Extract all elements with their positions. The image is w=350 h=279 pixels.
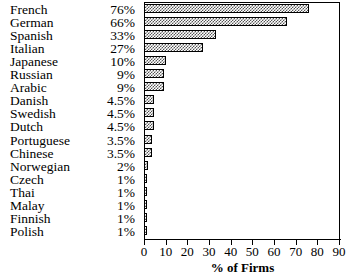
bar [144,69,164,78]
category-value-label: 27% [35,42,135,55]
bar [144,161,148,170]
plot-frame-top [144,2,340,3]
category-value-label: 9% [35,68,135,81]
category-value-label: 4.5% [35,120,135,133]
bar [144,187,147,196]
category-value-label: 9% [35,81,135,94]
category-value-label: 1% [35,173,135,186]
category-value-label: 3.5% [35,134,135,147]
category-value-label: 66% [35,16,135,29]
category-value-label: 4.5% [35,107,135,120]
category-value-label: 1% [35,212,135,225]
category-value-label: 10% [35,55,135,68]
x-axis-line [144,239,341,240]
bar [144,213,147,222]
bar [144,108,154,117]
category-value-label: 2% [35,160,135,173]
category-value-label: 33% [35,29,135,42]
x-axis-title: % of Firms [144,261,341,275]
bar [144,226,147,235]
bar [144,30,216,39]
bar [144,4,309,13]
bar [144,43,203,52]
bar [144,95,154,104]
bar [144,56,166,65]
bar [144,17,287,26]
category-value-label: 1% [35,186,135,199]
category-value-label: 3.5% [35,147,135,160]
category-value-label: 1% [35,199,135,212]
bar [144,82,164,91]
category-value-label: 4.5% [35,94,135,107]
bar [144,121,154,130]
bar-chart: French76%German66%Spanish33%Italian27%Ja… [0,0,350,279]
bar [144,200,147,209]
x-axis-tick-label: 90 [324,245,350,259]
bar [144,148,152,157]
plot-frame-right [339,2,340,239]
plot-area [144,2,340,239]
category-label-column: French76%German66%Spanish33%Italian27%Ja… [0,0,140,245]
category-value-label: 1% [35,225,135,238]
category-value-label: 76% [35,3,135,16]
bar [144,174,147,183]
bar [144,135,152,144]
